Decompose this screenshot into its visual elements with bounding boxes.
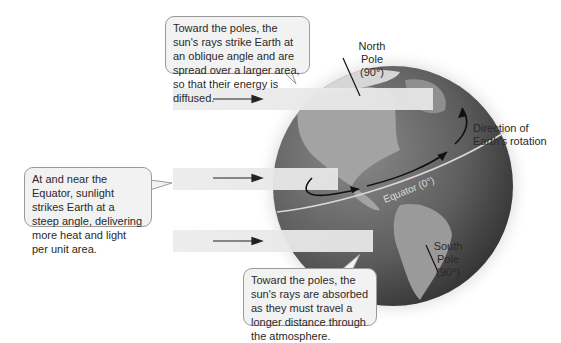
lower-beam — [173, 230, 373, 252]
bottom-callout: Toward the poles, the sun's rays are abs… — [243, 268, 377, 326]
rotation-label: Direction of Earth's rotation — [473, 122, 561, 148]
south-pole-label: South Pole (90°) — [428, 240, 468, 279]
left-callout: At and near the Equator, sunlight strike… — [24, 167, 152, 227]
top-callout: Toward the poles, the sun's rays strike … — [165, 16, 310, 74]
left-bubble-tail — [150, 180, 172, 190]
north-pole-label: North Pole (90°) — [352, 40, 392, 79]
